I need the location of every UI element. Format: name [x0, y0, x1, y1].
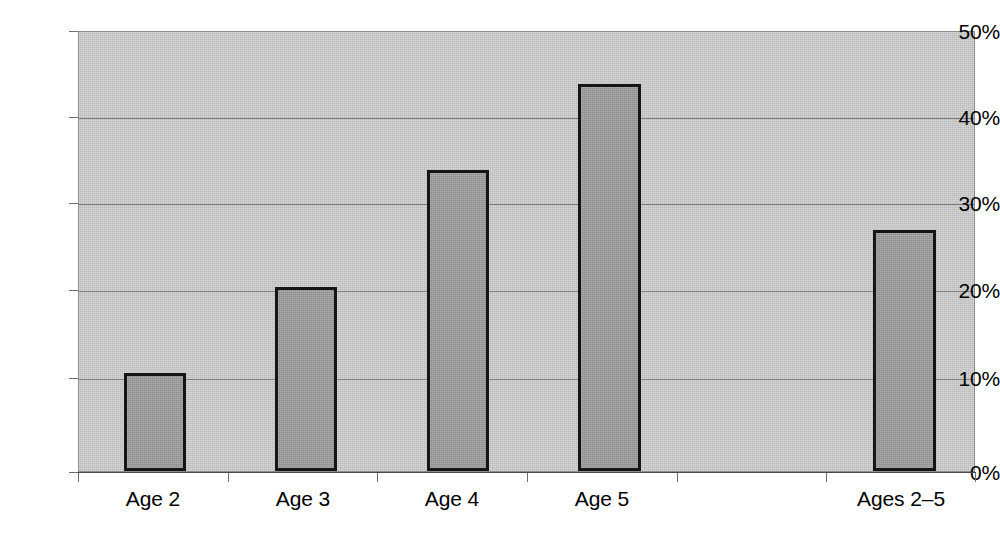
x-tick-label-ages-2-5: Ages 2–5	[857, 486, 945, 511]
gridline-40	[79, 118, 974, 119]
y-tick-mark-50	[69, 31, 78, 32]
x-tick-mark-2	[377, 473, 378, 482]
x-tick-label-age-5: Age 5	[575, 486, 629, 511]
y-tick-mark-0	[69, 472, 78, 473]
x-tick-label-age-4: Age 4	[425, 486, 479, 511]
bar-age-5	[578, 84, 641, 471]
y-tick-mark-40	[69, 117, 78, 118]
y-tick-label-30: 30%	[938, 193, 1000, 214]
gridline-20	[79, 291, 974, 292]
gridline-30	[79, 204, 974, 205]
x-tick-mark-0	[78, 473, 79, 482]
bar-age-4	[427, 170, 489, 471]
bar-texture	[430, 173, 486, 468]
y-tick-label-10: 10%	[938, 368, 1000, 389]
x-tick-mark-4	[677, 473, 678, 482]
y-tick-mark-10	[69, 378, 78, 379]
x-tick-mark-1	[228, 473, 229, 482]
x-tick-mark-6	[975, 473, 976, 482]
bar-texture	[581, 87, 638, 468]
bar-texture	[876, 233, 933, 468]
bar-texture	[278, 290, 334, 468]
bar-age-2	[124, 373, 186, 471]
y-tick-label-40: 40%	[938, 107, 1000, 128]
bar-ages-2-5	[873, 230, 936, 471]
x-tick-label-age-2: Age 2	[126, 486, 180, 511]
plot-background-texture	[79, 32, 974, 471]
bar-chart: 50% 40% 30% 20% 10% 0% Age 2 Age 3 Age 4…	[0, 0, 1000, 536]
y-tick-mark-30	[69, 203, 78, 204]
y-tick-mark-20	[69, 290, 78, 291]
gridline-10	[79, 379, 974, 380]
plot-area	[78, 31, 975, 472]
x-tick-label-age-3: Age 3	[276, 486, 330, 511]
bar-texture	[127, 376, 183, 468]
y-tick-label-50: 50%	[938, 21, 1000, 42]
x-tick-mark-5	[826, 473, 827, 482]
x-tick-mark-3	[527, 473, 528, 482]
bar-age-3	[275, 287, 337, 471]
y-tick-label-20: 20%	[938, 280, 1000, 301]
